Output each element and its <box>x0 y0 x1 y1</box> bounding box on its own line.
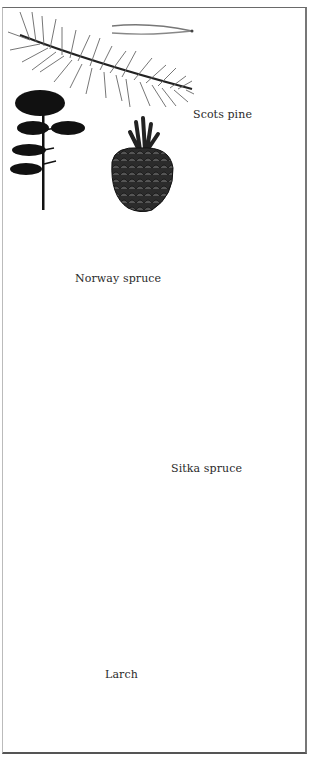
label-larch: Larch <box>105 668 138 681</box>
scots-pine-cone <box>112 118 173 212</box>
label-scots-pine: Scots pine <box>193 108 252 121</box>
scots-pine-tree-silhouette <box>10 90 85 210</box>
label-sitka-spruce: Sitka spruce <box>171 462 242 475</box>
scots-pine-needle-pair <box>112 25 194 34</box>
label-norway-spruce: Norway spruce <box>75 272 161 285</box>
illustration-canvas <box>0 0 330 763</box>
